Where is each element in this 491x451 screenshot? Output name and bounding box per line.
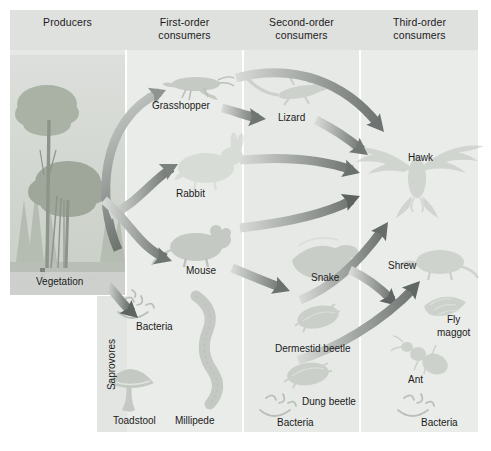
label-millipede: Millipede: [175, 415, 214, 426]
column-header-third-order: Third-order consumers: [361, 16, 478, 41]
label-grasshopper: Grasshopper: [152, 100, 210, 111]
label-rabbit: Rabbit: [176, 188, 205, 199]
food-web-diagram: Producers First-order consumers Second-o…: [0, 0, 491, 451]
label-snake: Snake: [311, 272, 339, 283]
saprovore-label: Saprovores: [97, 296, 127, 432]
label-bacteria-third-order: Bacteria: [421, 417, 458, 428]
label-bacteria-second-order: Bacteria: [277, 417, 314, 428]
label-hawk: Hawk: [408, 152, 433, 163]
label-mouse: Mouse: [186, 265, 216, 276]
saprovore-label-text: Saprovores: [107, 338, 118, 389]
label-shrew: Shrew: [388, 260, 416, 271]
label-ant: Ant: [408, 374, 423, 385]
column-band-second-order: [244, 10, 359, 432]
column-band-first-order: [127, 10, 242, 432]
label-dermestid-beetle: Dermestid beetle: [275, 343, 351, 354]
column-band-third-order: [361, 10, 478, 432]
label-toadstool: Toadstool: [113, 415, 156, 426]
label-lizard: Lizard: [278, 112, 305, 123]
label-dung-beetle: Dung beetle: [302, 396, 356, 407]
column-header-producers: Producers: [10, 16, 125, 29]
label-bacteria-first-order: Bacteria: [136, 321, 173, 332]
column-header-first-order: First-order consumers: [127, 16, 242, 41]
column-band-producers: [10, 10, 125, 295]
label-fly-maggot: Fly maggot: [437, 313, 470, 339]
label-vegetation: Vegetation: [36, 276, 83, 287]
column-header-second-order: Second-order consumers: [244, 16, 359, 41]
